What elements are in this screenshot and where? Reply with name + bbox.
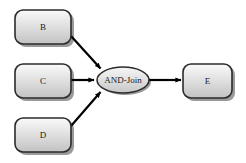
node-c[interactable]: C: [15, 64, 71, 98]
node-b[interactable]: B: [15, 10, 71, 44]
and-join-gateway[interactable]: AND-Join: [97, 67, 149, 93]
connector-d-to-and-join[interactable]: [71, 92, 101, 126]
node-d[interactable]: D: [15, 118, 71, 152]
and-join-label: AND-Join: [104, 75, 142, 85]
node-c-label: C: [40, 76, 46, 86]
workflow-diagram: B C D E AND-Join: [0, 0, 246, 163]
node-b-label: B: [40, 22, 46, 32]
node-e-label: E: [205, 76, 211, 86]
node-e[interactable]: E: [183, 64, 232, 98]
node-d-label: D: [40, 130, 47, 140]
diagram-canvas: B C D E AND-Join: [0, 0, 246, 163]
connector-b-to-and-join[interactable]: [71, 36, 101, 69]
